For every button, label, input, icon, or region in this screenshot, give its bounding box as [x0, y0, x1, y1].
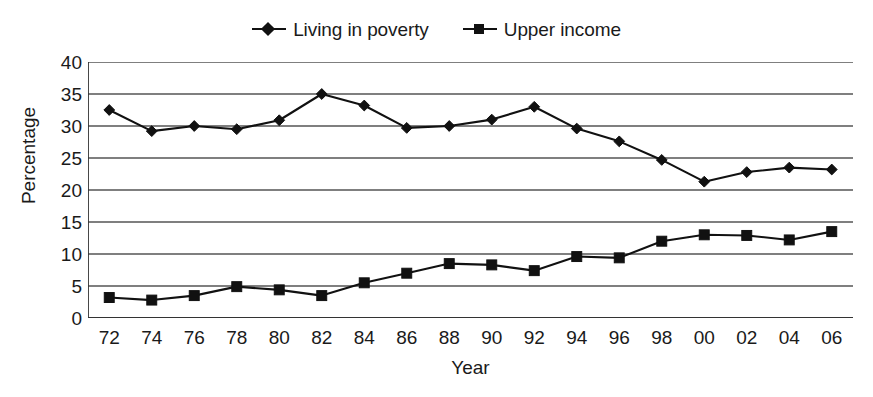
diamond-marker-icon: [252, 21, 286, 37]
x-axis-tick-label: 72: [86, 328, 132, 347]
data-point-marker-square: [444, 259, 454, 269]
y-axis-tick-label: 25: [40, 149, 82, 168]
data-point-marker-diamond: [146, 126, 157, 137]
y-axis-tick-labels: 0510152025303540: [40, 62, 82, 318]
data-point-marker-square: [274, 285, 284, 295]
data-point-marker-diamond: [104, 105, 115, 116]
legend-entry-living-in-poverty: Living in poverty: [252, 20, 429, 39]
x-axis-tick-label: 80: [256, 328, 302, 347]
x-axis-tick-label: 88: [426, 328, 472, 347]
legend-entry-upper-income: Upper income: [463, 20, 621, 39]
legend-label-living-in-poverty: Living in poverty: [293, 20, 429, 39]
x-axis-title: Year: [88, 358, 853, 377]
data-point-marker-diamond: [699, 176, 710, 187]
data-point-marker-square: [104, 293, 114, 303]
data-point-marker-diamond: [316, 89, 327, 100]
x-axis-tick-label: 78: [214, 328, 260, 347]
data-point-marker-square: [827, 227, 837, 237]
chart-legend: Living in poverty Upper income: [0, 14, 873, 44]
x-axis-tick-label: 92: [511, 328, 557, 347]
y-axis-tick-label: 40: [40, 53, 82, 72]
x-axis-tick-label: 84: [341, 328, 387, 347]
data-point-marker-diamond: [614, 136, 625, 147]
y-axis-title: Percentage: [19, 66, 38, 246]
data-point-marker-diamond: [571, 123, 582, 134]
data-point-marker-square: [189, 291, 199, 301]
x-axis-tick-label: 00: [681, 328, 727, 347]
data-point-marker-diamond: [359, 100, 370, 111]
x-axis-tick-label: 06: [809, 328, 855, 347]
plot-canvas: [88, 62, 853, 318]
data-point-marker-diamond: [401, 123, 412, 134]
data-point-marker-square: [529, 266, 539, 276]
y-axis-tick-label: 0: [40, 309, 82, 328]
data-point-marker-square: [572, 252, 582, 262]
x-axis-tick-label: 76: [171, 328, 217, 347]
data-point-marker-square: [359, 278, 369, 288]
x-axis-tick-label: 94: [554, 328, 600, 347]
x-axis-tick-label: 82: [299, 328, 345, 347]
x-axis-tick-label: 96: [596, 328, 642, 347]
data-point-marker-diamond: [784, 162, 795, 173]
data-point-marker-square: [657, 236, 667, 246]
data-point-marker-square: [614, 253, 624, 263]
legend-label-upper-income: Upper income: [504, 20, 621, 39]
square-marker-icon: [463, 21, 497, 37]
data-point-marker-square: [784, 235, 794, 245]
data-point-marker-diamond: [274, 115, 285, 126]
plot-area: [88, 62, 853, 318]
y-axis-tick-label: 20: [40, 181, 82, 200]
x-axis-tick-label: 98: [639, 328, 685, 347]
line-chart: Living in poverty Upper income Percentag…: [0, 0, 873, 397]
x-axis-tick-label: 90: [469, 328, 515, 347]
series-line-living-in-poverty: [109, 94, 832, 182]
data-point-marker-diamond: [529, 101, 540, 112]
data-point-marker-square: [742, 230, 752, 240]
data-point-marker-diamond: [741, 167, 752, 178]
data-point-marker-diamond: [486, 114, 497, 125]
data-point-marker-diamond: [189, 121, 200, 132]
y-axis-tick-label: 15: [40, 213, 82, 232]
data-point-marker-diamond: [656, 155, 667, 166]
x-axis-tick-label: 04: [766, 328, 812, 347]
data-point-marker-square: [699, 230, 709, 240]
data-point-marker-square: [317, 291, 327, 301]
x-axis-tick-label: 02: [724, 328, 770, 347]
y-axis-tick-label: 5: [40, 277, 82, 296]
data-point-marker-square: [402, 268, 412, 278]
x-axis-tick-label: 86: [384, 328, 430, 347]
data-point-marker-square: [147, 295, 157, 305]
data-point-marker-square: [232, 282, 242, 292]
data-point-marker-diamond: [826, 164, 837, 175]
series-line-upper-income: [109, 232, 832, 300]
data-point-marker-diamond: [444, 121, 455, 132]
y-axis-tick-label: 10: [40, 245, 82, 264]
y-axis-tick-label: 35: [40, 85, 82, 104]
y-axis-tick-label: 30: [40, 117, 82, 136]
data-point-marker-square: [487, 260, 497, 270]
x-axis-tick-labels: 727476788082848688909294969800020406: [88, 328, 853, 352]
x-axis-tick-label: 74: [129, 328, 175, 347]
